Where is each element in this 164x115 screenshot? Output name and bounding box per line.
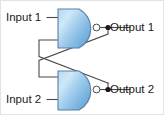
diagram-canvas: Input 1 Input 2 Output 1 Output 2: [0, 0, 164, 115]
nand-gate-bottom-body: [58, 71, 91, 110]
nand-gate-top-body: [58, 9, 91, 48]
nand-gate-bottom-inverter-bubble: [93, 86, 100, 93]
label-input-2: Input 2: [6, 93, 41, 105]
label-input-1: Input 1: [6, 11, 41, 23]
nand-gate-top-inverter-bubble: [93, 24, 100, 31]
logic-diagram: Input 1 Input 2 Output 1 Output 2: [1, 1, 164, 115]
label-output-2: Output 2: [110, 83, 154, 95]
label-output-1: Output 1: [110, 21, 154, 33]
